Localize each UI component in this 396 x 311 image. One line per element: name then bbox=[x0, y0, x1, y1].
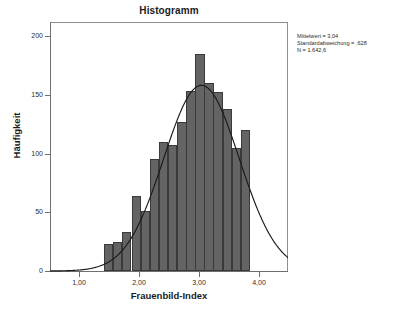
statistics-annotation: Mittelwert = 3,04 Standardabweichung = ,… bbox=[297, 33, 393, 55]
y-tick-mark bbox=[45, 154, 50, 155]
y-tick-mark bbox=[45, 36, 50, 37]
x-tick-label: 1,00 bbox=[59, 279, 99, 286]
histogram-bar bbox=[213, 92, 222, 271]
x-tick-mark bbox=[259, 272, 260, 277]
histogram-bar bbox=[141, 211, 150, 271]
histogram-bar bbox=[113, 242, 122, 271]
chart-title: Histogramm bbox=[50, 5, 288, 16]
histogram-bar bbox=[159, 142, 168, 271]
histogram-bar bbox=[223, 109, 232, 271]
x-tick-label: 4,00 bbox=[239, 279, 279, 286]
y-tick-label: 100 bbox=[31, 150, 43, 157]
y-tick-label: 150 bbox=[31, 91, 43, 98]
x-tick-label: 3,00 bbox=[179, 279, 219, 286]
annotation-mean: Mittelwert = 3,04 bbox=[297, 33, 393, 40]
x-tick-label: 2,00 bbox=[119, 279, 159, 286]
histogram-bar bbox=[104, 244, 113, 271]
histogram-bar bbox=[232, 148, 241, 271]
y-tick-label: 200 bbox=[31, 32, 43, 39]
y-tick-mark bbox=[45, 212, 50, 213]
y-tick-mark bbox=[45, 271, 50, 272]
histogram-bar bbox=[168, 145, 177, 271]
histogram-bar bbox=[186, 91, 195, 271]
histogram-bar bbox=[195, 54, 204, 271]
y-tick-mark bbox=[45, 95, 50, 96]
x-tick-mark bbox=[79, 272, 80, 277]
x-tick-mark bbox=[139, 272, 140, 277]
histogram-bar bbox=[241, 130, 250, 271]
x-tick-mark bbox=[199, 272, 200, 277]
y-tick-label: 0 bbox=[39, 267, 43, 274]
y-tick-label: 50 bbox=[35, 208, 43, 215]
y-axis-line bbox=[50, 22, 51, 272]
annotation-stddev: Standardabweichung = ,628 bbox=[297, 40, 393, 47]
histogram-bar bbox=[150, 159, 159, 271]
y-axis-title: Häufigkeit bbox=[11, 76, 22, 196]
x-axis-line bbox=[50, 271, 288, 272]
histogram-bar bbox=[177, 122, 186, 271]
histogram-bar bbox=[132, 196, 141, 271]
histogram-bar bbox=[122, 232, 131, 271]
histogram-figure: Histogramm 050100150200 1,002,003,004,00… bbox=[0, 0, 396, 311]
annotation-n: N = 1.642,6 bbox=[297, 47, 393, 54]
histogram-bar bbox=[204, 83, 213, 271]
x-axis-title: Frauenbild-Index bbox=[50, 290, 288, 301]
